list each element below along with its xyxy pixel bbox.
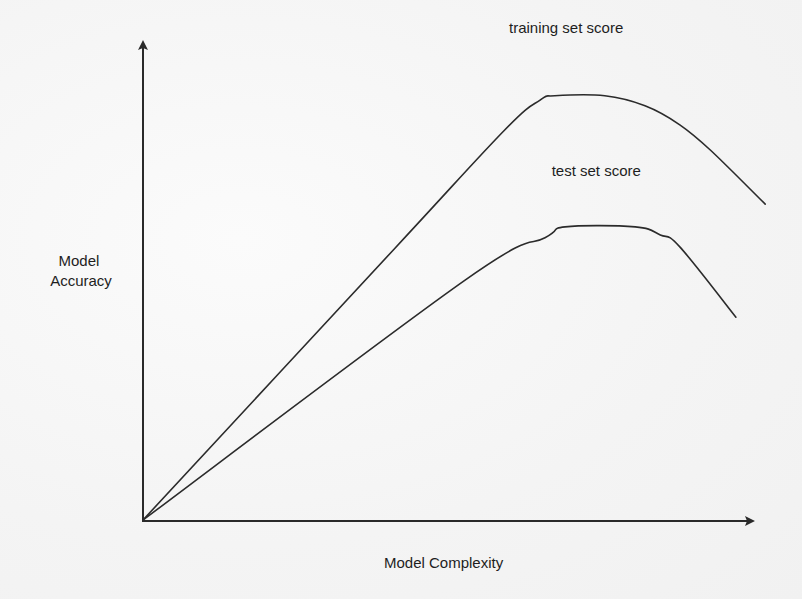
series-line-training-set-score [143,95,765,520]
annotation-training-set-score: training set score [509,19,623,36]
x-axis-label: Model Complexity [384,554,504,571]
series-layer [143,95,765,520]
y-axis-label-line-2: Accuracy [50,272,112,289]
y-axis-label: Model Accuracy [50,252,112,289]
series-line-test-set-score [143,226,736,520]
accuracy-vs-complexity-chart: training set scoretest set score Model C… [0,0,802,599]
annotation-test-set-score: test set score [552,162,641,179]
y-axis-label-line-1: Model [58,252,99,269]
